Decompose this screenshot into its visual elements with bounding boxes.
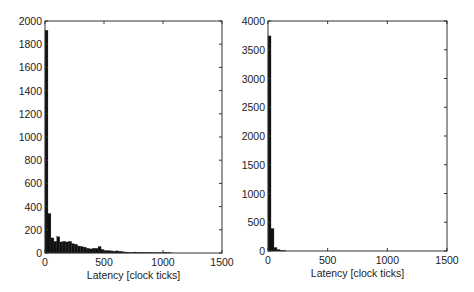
y-tick-label: 2000: [19, 15, 43, 27]
x-tick-label: 1500: [435, 254, 459, 266]
y-tick-label: 4000: [242, 15, 266, 27]
x-tick-label: 500: [95, 256, 113, 268]
histogram-bars: [45, 30, 172, 253]
x-axis-label: Latency [clock ticks]: [311, 267, 404, 279]
y-tick-label: 1800: [19, 38, 43, 50]
y-tick-label: 2500: [242, 101, 266, 113]
left-histogram: 0200400600800100012001400160018002000050…: [0, 0, 237, 292]
histogram-bar: [54, 241, 57, 253]
histogram-bar: [75, 244, 78, 253]
x-tick-label: 1000: [376, 254, 400, 266]
histogram-bar: [89, 249, 92, 253]
histogram-bars: [268, 36, 286, 251]
plot-frame: [268, 21, 447, 251]
histogram-bar: [83, 247, 86, 253]
histogram-bar: [72, 244, 75, 253]
y-tick-label: 200: [24, 224, 42, 236]
y-tick-label: 3500: [242, 44, 266, 56]
y-tick-label: 1000: [19, 131, 43, 143]
x-tick-label: 0: [265, 254, 271, 266]
y-tick-label: 1500: [242, 159, 266, 171]
histogram-bar: [86, 248, 89, 253]
y-tick-label: 400: [24, 201, 42, 213]
y-tick-label: 800: [24, 154, 42, 166]
histogram-bar: [80, 247, 83, 253]
y-tick-label: 1600: [19, 61, 43, 73]
x-tick-label: 1500: [210, 256, 234, 268]
histogram-bar: [57, 237, 60, 253]
histogram-bar: [274, 248, 277, 251]
histogram-bar: [63, 241, 66, 253]
x-tick-label: 1000: [151, 256, 175, 268]
histogram-bar: [271, 229, 274, 251]
y-tick-label: 2000: [242, 130, 266, 142]
x-axis-label: Latency [clock ticks]: [87, 269, 180, 281]
histogram-bar: [66, 242, 69, 253]
histogram-bar: [48, 214, 51, 253]
histogram-bar: [60, 242, 63, 253]
y-tick-label: 1400: [19, 85, 43, 97]
y-tick-label: 3000: [242, 73, 266, 85]
histogram-bar: [98, 247, 101, 253]
y-tick-label: 1200: [19, 108, 43, 120]
histogram-bar: [51, 238, 54, 253]
y-tick-label: 500: [247, 216, 265, 228]
plot-frame: [45, 21, 222, 253]
y-tick-label: 1000: [242, 188, 266, 200]
histogram-bar: [92, 248, 95, 253]
right-histogram: 0500100015002000250030003500400005001000…: [237, 0, 474, 292]
histogram-bar: [69, 241, 72, 253]
histogram-bar: [95, 248, 98, 253]
x-tick-label: 500: [319, 254, 337, 266]
histogram-bar: [77, 246, 80, 253]
x-tick-label: 0: [42, 256, 48, 268]
y-tick-label: 600: [24, 177, 42, 189]
